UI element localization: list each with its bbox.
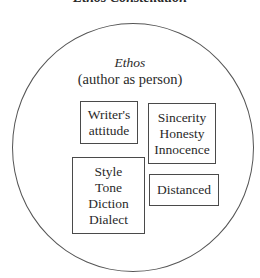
ethos-name: Ethos xyxy=(0,55,260,71)
box-line: Dialect xyxy=(89,212,128,228)
box-line: Sincerity xyxy=(158,110,207,126)
ethos-subtitle: (author as person) xyxy=(0,71,260,88)
style-tone-diction-dialect-box: Style Tone Diction Dialect xyxy=(72,157,145,234)
diagram-title: Ethos Constellation xyxy=(0,0,260,5)
ethos-label: Ethos (author as person) xyxy=(0,55,260,88)
box-line: Style xyxy=(95,164,123,180)
box-line: Writer's xyxy=(88,107,130,123)
distanced-box: Distanced xyxy=(149,174,219,206)
box-line: Distanced xyxy=(157,182,211,198)
box-line: Honesty xyxy=(160,126,205,142)
box-line: Innocence xyxy=(154,142,209,158)
box-line: Tone xyxy=(95,180,122,196)
sincerity-honesty-innocence-box: Sincerity Honesty Innocence xyxy=(148,103,216,164)
box-line: Diction xyxy=(88,196,129,212)
box-line: attitude xyxy=(89,123,130,139)
writers-attitude-box: Writer's attitude xyxy=(80,101,138,144)
